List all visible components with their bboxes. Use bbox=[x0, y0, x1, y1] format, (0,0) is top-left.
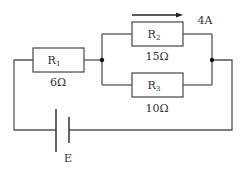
r1-subscript: 1 bbox=[56, 60, 60, 68]
battery-label: E bbox=[64, 152, 72, 165]
r1-value: 6Ω bbox=[50, 76, 66, 89]
circuit-diagram: R1 6Ω R2 15Ω R3 10Ω 4A E bbox=[0, 0, 242, 169]
resistor-r1: R1 6Ω bbox=[33, 48, 84, 89]
r2-subscript: 2 bbox=[156, 34, 160, 42]
resistor-r2: R2 15Ω bbox=[132, 22, 183, 63]
battery-icon bbox=[56, 109, 69, 152]
resistor-r3: R3 10Ω bbox=[132, 73, 183, 115]
current-label: 4A bbox=[198, 14, 214, 27]
right-junction-dot bbox=[210, 58, 214, 62]
left-junction-dot bbox=[100, 58, 104, 62]
r3-subscript: 3 bbox=[156, 85, 160, 93]
r2-value: 15Ω bbox=[145, 50, 168, 63]
current-arrow-icon bbox=[132, 13, 183, 18]
r3-value: 10Ω bbox=[145, 102, 168, 115]
